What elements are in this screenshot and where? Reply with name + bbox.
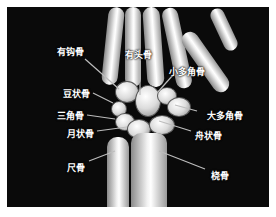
label-trapezium: 大多角骨 bbox=[207, 109, 243, 122]
thumb-phalanx bbox=[208, 7, 240, 53]
label-ulna: 尺骨 bbox=[67, 161, 85, 174]
metacarpal-4 bbox=[125, 7, 141, 87]
carpal-scaphoid bbox=[149, 115, 175, 135]
wrist-bone-diagram: 有钩骨 有头骨 小多角骨 豆状骨 三角骨 大多角骨 月状骨 舟状骨 尺骨 桡骨 bbox=[7, 7, 269, 207]
radius-bone bbox=[131, 133, 167, 207]
label-trapezoid: 小多角骨 bbox=[169, 65, 205, 78]
label-lunate: 月状骨 bbox=[67, 127, 94, 140]
carpal-capitate bbox=[135, 85, 161, 117]
label-radius: 桡骨 bbox=[211, 169, 229, 182]
label-hamate: 有钩骨 bbox=[57, 45, 84, 58]
carpal-trapezium bbox=[167, 97, 191, 117]
label-capitate: 有头骨 bbox=[125, 48, 152, 61]
metacarpal-5 bbox=[101, 7, 125, 86]
label-scaphoid: 舟状骨 bbox=[195, 129, 222, 142]
ulna-bone bbox=[107, 137, 129, 207]
label-pisiform: 豆状骨 bbox=[63, 87, 90, 100]
label-triquetrum: 三角骨 bbox=[57, 109, 84, 122]
